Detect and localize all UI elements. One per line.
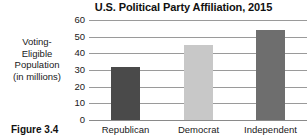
y-tick-label-60: 60 — [60, 15, 85, 25]
gridline-60 — [89, 20, 307, 21]
x-category-label-republican: Republican — [89, 124, 162, 135]
plot-area — [89, 20, 307, 120]
y-axis-title: Voting- Eligible Population (in millions… — [0, 36, 74, 82]
y-tick-label-10: 10 — [60, 98, 85, 108]
bar-independent — [256, 30, 285, 120]
x-category-label-democrat: Democrat — [162, 124, 235, 135]
y-tick-label-0: 0 — [60, 115, 85, 125]
figure-caption: Figure 3.4 — [11, 124, 58, 135]
figure-container: U.S. Political Party Affiliation, 2015 V… — [0, 0, 307, 138]
x-category-label-independent: Independent — [234, 124, 307, 135]
y-tick-label-40: 40 — [60, 48, 85, 58]
chart-title: U.S. Political Party Affiliation, 2015 — [60, 1, 307, 14]
y-tick-label-20: 20 — [60, 82, 85, 92]
x-axis-line — [89, 120, 307, 121]
y-tick-label-30: 30 — [60, 65, 85, 75]
bar-democrat — [184, 45, 213, 120]
y-tick-label-50: 50 — [60, 32, 85, 42]
bar-republican — [111, 67, 140, 120]
